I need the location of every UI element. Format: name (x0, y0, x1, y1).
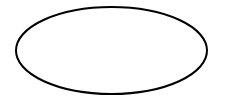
ellipse-shape (16, 7, 207, 94)
diagram-canvas (0, 0, 227, 100)
diagram-svg (0, 0, 227, 100)
